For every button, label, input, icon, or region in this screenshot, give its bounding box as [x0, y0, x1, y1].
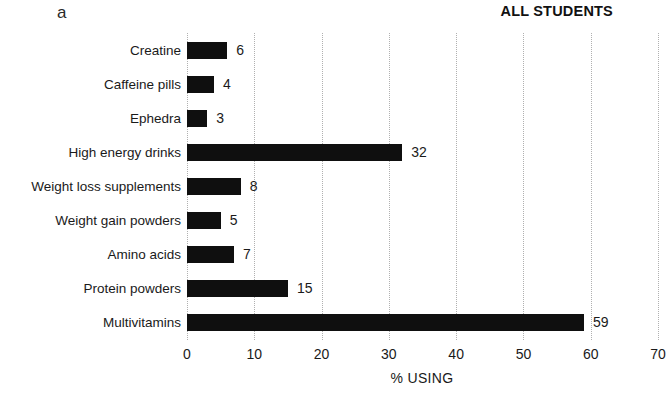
category-label: Amino acids: [0, 246, 181, 263]
x-tick-label: 70: [650, 346, 666, 362]
category-label: Weight loss supplements: [0, 178, 181, 195]
gridline: [456, 33, 457, 340]
chart-title: ALL STUDENTS: [501, 3, 614, 19]
value-label: 32: [411, 144, 427, 161]
gridline: [523, 33, 524, 340]
category-label: Protein powders: [0, 280, 181, 297]
category-label: Creatine: [0, 42, 181, 59]
value-label: 15: [297, 280, 313, 297]
value-label: 6: [236, 42, 244, 59]
bar: [187, 110, 207, 127]
plot-area: 643328571559: [187, 33, 658, 340]
x-tick-label: 40: [448, 346, 464, 362]
value-label: 7: [243, 246, 251, 263]
category-label: Ephedra: [0, 110, 181, 127]
value-label: 59: [593, 314, 609, 331]
value-label: 5: [230, 212, 238, 229]
category-label: High energy drinks: [0, 144, 181, 161]
category-label: Multivitamins: [0, 314, 181, 331]
x-tick-label: 0: [183, 346, 191, 362]
bar: [187, 42, 227, 59]
category-label: Weight gain powders: [0, 212, 181, 229]
bar: [187, 144, 402, 161]
category-label: Caffeine pills: [0, 76, 181, 93]
x-tick-label: 10: [246, 346, 262, 362]
gridline: [591, 33, 592, 340]
x-axis-label: % USING: [391, 370, 454, 386]
bar: [187, 212, 221, 229]
bar: [187, 280, 288, 297]
bar: [187, 76, 214, 93]
panel-label: a: [57, 3, 66, 23]
bar-chart-figure: a ALL STUDENTS CreatineCaffeine pillsEph…: [0, 0, 672, 414]
value-label: 8: [250, 178, 258, 195]
gridline: [322, 33, 323, 340]
gridline: [658, 33, 659, 340]
x-tick-label: 20: [314, 346, 330, 362]
x-tick-label: 60: [583, 346, 599, 362]
value-label: 3: [216, 110, 224, 127]
x-tick-label: 50: [516, 346, 532, 362]
bar: [187, 178, 241, 195]
value-label: 4: [223, 76, 231, 93]
gridline: [389, 33, 390, 340]
x-tick-label: 30: [381, 346, 397, 362]
bar: [187, 246, 234, 263]
bar: [187, 314, 584, 331]
